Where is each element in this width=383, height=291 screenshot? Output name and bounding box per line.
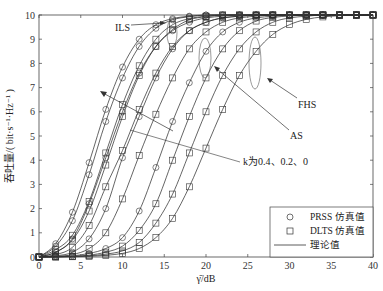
annotation-fhs-arrow: [270, 80, 297, 98]
x-tick-label: 40: [368, 260, 378, 271]
annotation-as: AS: [214, 66, 303, 141]
annotation-ils: ILS: [115, 19, 177, 47]
y-tick-labels: 012345678910: [25, 10, 35, 263]
annotation-fhs-label: FHS: [298, 99, 316, 110]
legend-label-prss: PRSS 仿真值: [310, 211, 365, 222]
x-tick-label: 35: [326, 260, 336, 271]
annotation-as-arrow: [217, 69, 289, 130]
annotation-k-label: k为0.4、0.2、0: [243, 156, 308, 167]
annotation-k-leader: [130, 130, 240, 162]
y-tick-label: 7: [30, 82, 35, 93]
y-tick-label: 9: [30, 34, 35, 45]
legend-label-theory: 理论值: [310, 239, 340, 250]
x-tick-label: 15: [159, 260, 169, 271]
annotation-ils-label: ILS: [115, 22, 130, 33]
y-tick-label: 2: [30, 203, 35, 214]
annotation-as-label: AS: [290, 130, 303, 141]
throughput-chart: 0510152025303540 012345678910 γ̄/dB 吞吐量/…: [0, 0, 383, 291]
x-tick-label: 25: [243, 260, 253, 271]
x-tick-label: 30: [285, 260, 295, 271]
annotation-k-arrowhead: [100, 91, 107, 97]
legend-label-dlts: DLTS 仿真值: [310, 225, 365, 236]
x-tick-labels: 0510152025303540: [37, 260, 379, 271]
x-tick-label: 10: [118, 260, 128, 271]
y-tick-label: 10: [25, 10, 35, 21]
x-axis-label: γ̄/dB: [196, 273, 216, 284]
annotation-ils-arrow: [131, 23, 163, 25]
legend: PRSS 仿真值 DLTS 仿真值 理论值: [270, 207, 373, 257]
x-tick-label: 0: [37, 260, 42, 271]
annotation-fhs-ellipse: [249, 37, 261, 89]
y-tick-label: 3: [30, 179, 35, 190]
y-tick-label: 5: [30, 131, 35, 142]
x-tick-label: 5: [78, 260, 83, 271]
y-tick-label: 8: [30, 58, 35, 69]
x-tick-label: 20: [201, 260, 211, 271]
annotation-fhs-arrowhead: [267, 78, 273, 83]
y-tick-label: 6: [30, 106, 35, 117]
y-tick-label: 1: [30, 227, 35, 238]
annotation-fhs: FHS: [199, 37, 316, 110]
annotation-fhs-ellipse-2: [199, 38, 211, 78]
y-tick-label: 4: [30, 155, 35, 166]
y-axis-label: 吞吐量/( bit·s⁻¹·Hz⁻¹ ): [4, 89, 16, 183]
y-tick-label: 0: [30, 252, 35, 263]
